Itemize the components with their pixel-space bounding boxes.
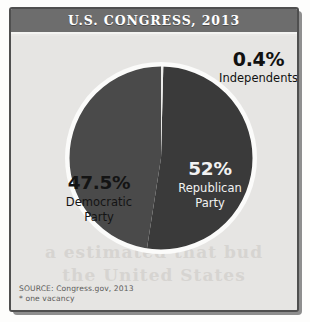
pie-graphic xyxy=(57,54,265,262)
source-line: SOURCE: Congress.gov, 2013 xyxy=(19,284,134,294)
panel-titlebar: U.S. CONGRESS, 2013 xyxy=(11,9,297,34)
pie-chart-area: a estimated that bud the United States xyxy=(11,36,297,310)
page-title: U.S. CONGRESS, 2013 xyxy=(68,13,240,28)
ghost-line-2: the United States xyxy=(62,265,245,285)
footnote-line: * one vacancy xyxy=(19,294,134,304)
infographic-page: U.S. CONGRESS, 2013 a estimated that bud… xyxy=(0,0,310,322)
source-note: SOURCE: Congress.gov, 2013 * one vacancy xyxy=(19,284,134,304)
pie-slice-republican xyxy=(147,65,254,251)
pie-slice-democratic xyxy=(68,65,161,250)
chart-panel: U.S. CONGRESS, 2013 a estimated that bud… xyxy=(9,7,299,312)
pie-svg xyxy=(57,54,265,262)
